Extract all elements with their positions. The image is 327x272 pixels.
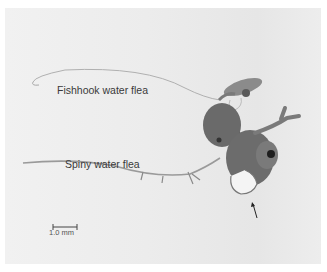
fishhook-eye <box>242 89 250 97</box>
specimen-illustration <box>5 8 321 264</box>
spiny-water-flea-label: Spiny water flea <box>65 158 140 170</box>
spiny-legs <box>255 108 299 133</box>
fishhook-water-flea-label: Fishhook water flea <box>57 84 148 96</box>
fishhook-hook <box>33 82 39 85</box>
spiny-eye <box>267 150 275 158</box>
specimen-photo <box>5 8 321 264</box>
scale-bar-label: 1.0 mm <box>49 228 74 237</box>
fishhook-body <box>222 74 264 100</box>
